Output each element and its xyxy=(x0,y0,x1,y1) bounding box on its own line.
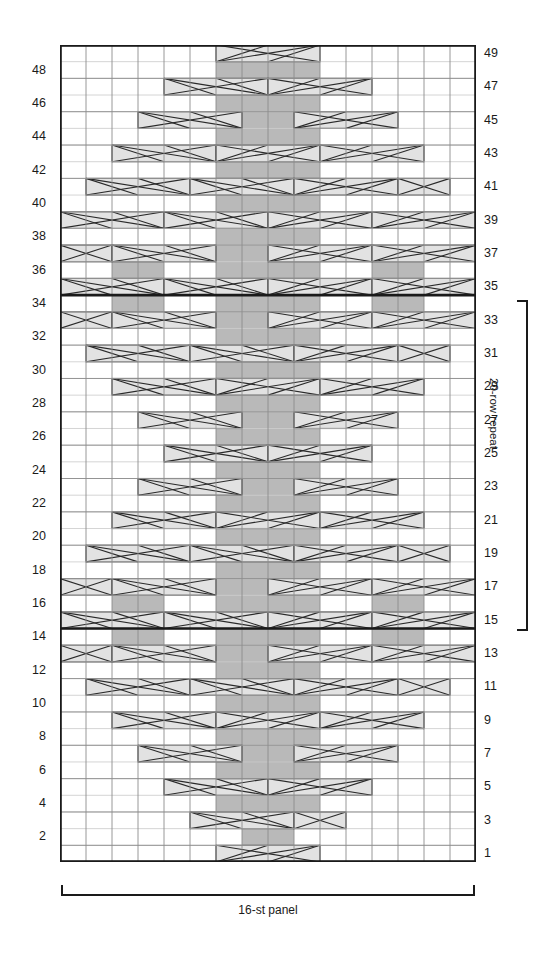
row-number-5: 5 xyxy=(484,780,491,793)
row-number-39: 39 xyxy=(484,214,498,227)
row-number-30: 30 xyxy=(32,364,46,377)
row-number-38: 38 xyxy=(32,230,46,243)
repeat-label: 20-row repeat xyxy=(488,378,500,558)
row-number-11: 11 xyxy=(484,680,497,693)
row-number-34: 34 xyxy=(32,297,46,310)
row-number-41: 41 xyxy=(484,180,498,193)
panel-bracket-icon xyxy=(60,884,476,898)
row-number-45: 45 xyxy=(484,114,498,127)
chart-grid-svg xyxy=(60,45,476,862)
row-number-2: 2 xyxy=(39,830,46,843)
row-number-47: 47 xyxy=(484,80,498,93)
row-number-37: 37 xyxy=(484,247,498,260)
row-number-36: 36 xyxy=(32,264,46,277)
row-number-4: 4 xyxy=(39,797,46,810)
row-number-31: 31 xyxy=(484,347,498,360)
row-number-26: 26 xyxy=(32,430,46,443)
row-number-9: 9 xyxy=(484,714,491,727)
row-number-18: 18 xyxy=(32,564,46,577)
row-number-40: 40 xyxy=(32,197,46,210)
row-number-8: 8 xyxy=(39,730,46,743)
row-number-46: 46 xyxy=(32,97,46,110)
row-number-15: 15 xyxy=(484,614,498,627)
row-number-1: 1 xyxy=(484,847,491,860)
row-number-43: 43 xyxy=(484,147,498,160)
row-number-49: 49 xyxy=(484,47,498,60)
row-number-13: 13 xyxy=(484,647,498,660)
row-number-28: 28 xyxy=(32,397,46,410)
row-number-32: 32 xyxy=(32,330,46,343)
row-number-35: 35 xyxy=(484,280,498,293)
row-number-12: 12 xyxy=(32,664,46,677)
row-number-16: 16 xyxy=(32,597,46,610)
row-number-33: 33 xyxy=(484,314,498,327)
row-number-6: 6 xyxy=(39,764,46,777)
row-number-10: 10 xyxy=(32,697,46,710)
row-number-24: 24 xyxy=(32,464,46,477)
row-number-14: 14 xyxy=(32,630,46,643)
repeat-bracket-icon xyxy=(516,299,530,632)
row-number-20: 20 xyxy=(32,530,46,543)
row-number-7: 7 xyxy=(484,747,491,760)
knitting-chart-figure: 4846444240383634323028262422201816141210… xyxy=(0,0,540,955)
panel-label: 16-st panel xyxy=(60,903,476,917)
row-number-3: 3 xyxy=(484,814,491,827)
row-number-17: 17 xyxy=(484,580,498,593)
row-number-22: 22 xyxy=(32,497,46,510)
row-number-42: 42 xyxy=(32,164,46,177)
row-number-44: 44 xyxy=(32,130,46,143)
chart-grid xyxy=(60,45,476,862)
row-number-48: 48 xyxy=(32,64,46,77)
